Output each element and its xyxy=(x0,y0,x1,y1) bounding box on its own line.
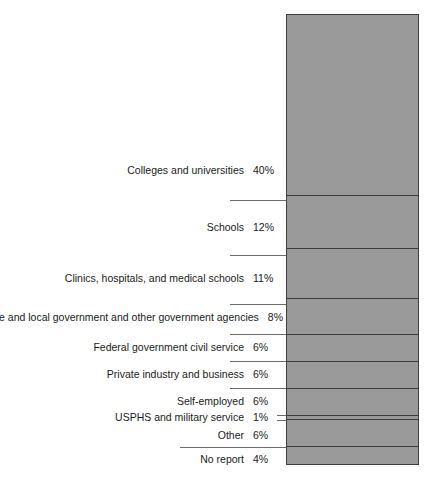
bar-segment-schools xyxy=(287,195,418,249)
bar-segment-no-report xyxy=(287,446,418,464)
label-row-clinics-hospitals-medical-schools: Clinics, hospitals, and medical schools … xyxy=(0,271,283,286)
label-value: 1% xyxy=(253,410,283,425)
label-text: Other xyxy=(218,428,244,443)
label-row-usphs-and-military-service: USPHS and military service 1% xyxy=(0,410,283,425)
label-text: USPHS and military service xyxy=(115,410,244,425)
label-text: Private industry and business xyxy=(107,367,244,382)
bar-segment-self-employed xyxy=(287,388,418,415)
label-value: 11% xyxy=(253,271,283,286)
label-value: 12% xyxy=(253,220,283,235)
stacked-bar-chart: Colleges and universities 40% Schools 12… xyxy=(0,0,429,481)
label-value: 40% xyxy=(253,163,283,178)
leader-line-schools xyxy=(230,200,286,201)
label-value: 6% xyxy=(253,367,283,382)
label-value: 4% xyxy=(253,452,283,467)
label-text: Clinics, hospitals, and medical schools xyxy=(65,271,244,286)
label-value: 8% xyxy=(268,310,283,325)
bar-segment-other xyxy=(287,419,418,446)
label-row-colleges-and-universities: Colleges and universities 40% xyxy=(0,163,283,178)
bar-segment-federal-government-civil-service xyxy=(287,334,418,361)
leader-line-clinics xyxy=(230,255,286,256)
label-row-private-industry-and-business: Private industry and business 6% xyxy=(0,367,283,382)
stacked-bar-column xyxy=(286,14,419,465)
label-value: 6% xyxy=(253,394,283,409)
label-row-state-local-government: State and local government and other gov… xyxy=(0,310,283,325)
label-row-self-employed: Self-employed 6% xyxy=(0,394,283,409)
label-text: Colleges and universities xyxy=(127,163,244,178)
leader-line-private-industry xyxy=(230,361,286,362)
leader-line-federal xyxy=(230,334,286,335)
label-text: Schools xyxy=(207,220,244,235)
label-row-other: Other 6% xyxy=(0,428,283,443)
label-row-no-report: No report 4% xyxy=(0,452,283,467)
bar-segment-colleges-and-universities xyxy=(287,15,418,195)
label-text: Federal government civil service xyxy=(93,340,244,355)
label-value: 6% xyxy=(253,428,283,443)
label-value: 6% xyxy=(253,340,283,355)
label-text: Self-employed xyxy=(177,394,244,409)
leader-line-state-local xyxy=(230,304,286,305)
label-text: No report xyxy=(200,452,244,467)
bar-segment-clinics-hospitals-medical-schools xyxy=(287,248,418,297)
leader-line-self-employed xyxy=(230,388,286,389)
label-row-federal-government-civil-service: Federal government civil service 6% xyxy=(0,340,283,355)
label-row-schools: Schools 12% xyxy=(0,220,283,235)
bar-segment-private-industry-and-business xyxy=(287,361,418,388)
leader-line-no-report xyxy=(180,447,286,448)
label-text: State and local government and other gov… xyxy=(0,310,259,325)
bar-segment-state-local-government xyxy=(287,298,418,334)
